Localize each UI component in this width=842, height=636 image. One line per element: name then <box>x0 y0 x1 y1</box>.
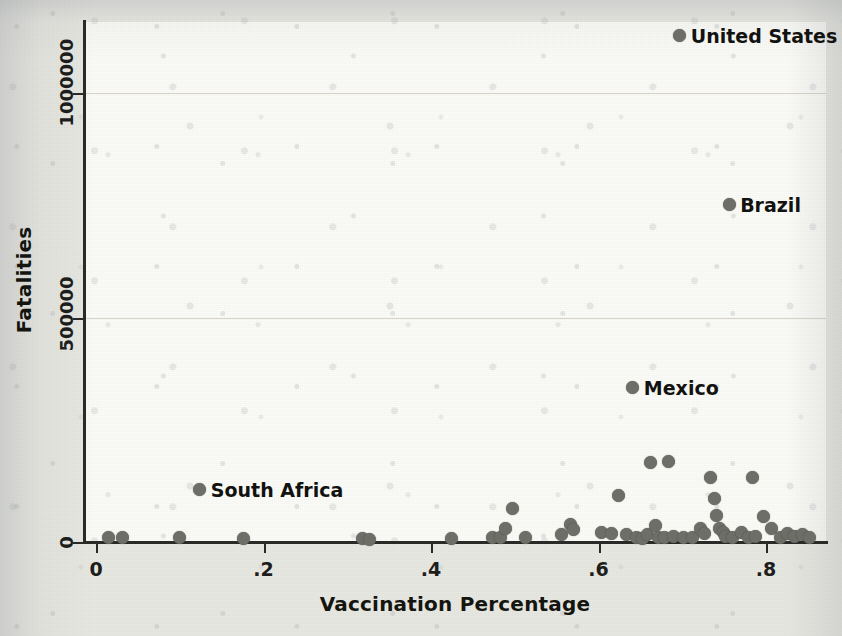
data-point <box>445 532 458 545</box>
x-axis-tick-label: .8 <box>756 558 776 580</box>
x-axis-tick <box>264 544 266 553</box>
x-axis-tick-label: .4 <box>421 558 441 580</box>
data-point <box>506 502 519 515</box>
data-point <box>644 456 657 469</box>
x-axis-tick-label: .6 <box>588 558 608 580</box>
y-axis-line <box>83 20 86 544</box>
data-point <box>698 527 711 540</box>
x-axis-title: Vaccination Percentage <box>84 592 826 616</box>
gridline-y <box>84 318 826 319</box>
x-axis-tick <box>431 544 433 553</box>
y-axis-title-text: Fatalities <box>12 227 36 334</box>
data-point <box>519 531 532 544</box>
gridline-y <box>84 93 826 94</box>
data-point <box>363 533 376 546</box>
data-point-annotation: Mexico <box>644 377 719 399</box>
scatter-plot-figure: United StatesBrazilMexicoSouth Africa 0.… <box>0 0 842 636</box>
x-axis-tick-label: .2 <box>253 558 273 580</box>
y-axis-tick-label: 1000000 <box>56 61 77 127</box>
data-point <box>662 455 675 468</box>
x-axis-tick <box>766 544 768 553</box>
x-axis-tick <box>96 544 98 553</box>
x-axis-tick <box>599 544 601 553</box>
data-point-labeled <box>723 198 736 211</box>
y-axis-title: Fatalities <box>10 0 38 560</box>
plot-area <box>84 22 826 542</box>
y-axis-tick-label: 500000 <box>56 285 77 351</box>
data-point-annotation: South Africa <box>211 479 343 501</box>
data-point <box>605 527 618 540</box>
x-axis-tick-label: 0 <box>89 558 102 580</box>
data-point <box>710 509 723 522</box>
data-point <box>708 492 721 505</box>
data-point <box>803 531 816 544</box>
data-point-annotation: Brazil <box>740 194 801 216</box>
y-axis-tick-label: 0 <box>56 510 77 576</box>
data-point-annotation: United States <box>691 25 838 47</box>
